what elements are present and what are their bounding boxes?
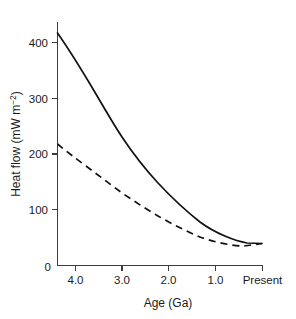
svg-text:Heat flow (mW m−2): Heat flow (mW m−2) <box>8 91 23 197</box>
chart-canvas: 400 300 200 100 0 4.0 3.0 2.0 1.0 Presen… <box>0 0 296 319</box>
y-tick-label-200: 200 <box>29 148 48 160</box>
y-tick-label-400: 400 <box>29 37 48 49</box>
x-tick-label-4-0: 4.0 <box>68 274 84 286</box>
series-line-solid <box>58 33 263 244</box>
x-axis-tick-labels: 4.0 3.0 2.0 1.0 Present <box>68 274 284 286</box>
heat-flow-chart-figure: 400 300 200 100 0 4.0 3.0 2.0 1.0 Presen… <box>0 0 296 319</box>
y-axis-title-close: ) <box>9 91 23 95</box>
x-axis-ticks <box>76 266 263 272</box>
x-tick-label-3-0: 3.0 <box>114 274 130 286</box>
x-tick-label-present: Present <box>243 274 283 286</box>
y-axis-ticks <box>52 43 58 210</box>
y-axis-tick-labels: 400 300 200 100 0 <box>29 37 51 273</box>
x-tick-label-1-0: 1.0 <box>208 274 224 286</box>
x-tick-label-2-0: 2.0 <box>161 274 177 286</box>
x-axis-title: Age (Ga) <box>144 296 193 310</box>
y-tick-label-0: 0 <box>45 261 51 273</box>
y-axis-title-main: Heat flow (mW m <box>9 105 23 197</box>
y-axis-title-exponent: −2 <box>8 95 18 105</box>
y-axis-title: Heat flow (mW m−2) <box>8 91 23 197</box>
y-tick-label-100: 100 <box>29 204 48 216</box>
y-tick-label-300: 300 <box>29 93 48 105</box>
series-line-dashed <box>58 144 263 246</box>
